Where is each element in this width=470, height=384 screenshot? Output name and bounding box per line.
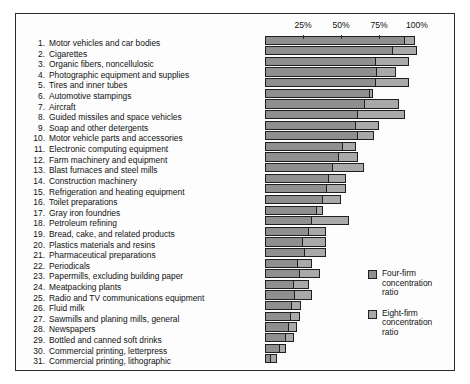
- category-number: 26.: [26, 303, 49, 314]
- bar-four-firm: [265, 121, 356, 130]
- category-label-row: 18.Petroleum refining: [26, 218, 256, 229]
- bar-four-firm: [265, 333, 286, 342]
- category-label-row: 11.Electronic computing equipment: [26, 144, 256, 155]
- category-label-list: 1.Motor vehicles and car bodies2.Cigaret…: [26, 38, 256, 367]
- category-name: Soap and other detergents: [49, 123, 256, 134]
- category-number: 16.: [26, 197, 49, 208]
- category-label-row: 21.Pharmaceutical preparations: [26, 250, 256, 261]
- bar-four-firm: [265, 174, 329, 183]
- category-name: Photographic equipment and supplies: [49, 70, 256, 81]
- category-name: Papermills, excluding building paper: [49, 271, 256, 282]
- category-name: Commercial printing, letterpress: [49, 346, 256, 357]
- category-number: 8.: [26, 112, 49, 123]
- category-number: 15.: [26, 187, 49, 198]
- bar-four-firm: [265, 67, 377, 76]
- bar-four-firm: [265, 248, 305, 257]
- bar-four-firm: [265, 46, 393, 55]
- category-name: Fluid milk: [49, 303, 256, 314]
- bar-row: [265, 88, 417, 99]
- category-number: 10.: [26, 133, 49, 144]
- category-name: Bread, cake, and related products: [49, 229, 256, 240]
- category-label-row: 20.Plastics materials and resins: [26, 240, 256, 251]
- category-number: 21.: [26, 250, 49, 261]
- category-number: 13.: [26, 165, 49, 176]
- category-name: Tires and inner tubes: [49, 80, 256, 91]
- category-name: Sawmills and planing mills, general: [49, 314, 256, 325]
- bar-four-firm: [265, 280, 294, 289]
- bar-four-firm: [265, 99, 365, 108]
- category-number: 27.: [26, 314, 49, 325]
- category-name: Motor vehicle parts and accessories: [49, 133, 256, 144]
- category-label-row: 19.Bread, cake, and related products: [26, 229, 256, 240]
- category-label-row: 8.Guided missiles and space vehicles: [26, 112, 256, 123]
- x-axis-tick-labels: 25%50%75%100%: [265, 20, 440, 34]
- bar-row: [265, 120, 417, 131]
- bar-four-firm: [265, 290, 295, 299]
- category-name: Radio and TV communications equipment: [49, 293, 256, 304]
- x-axis-tick-label: 75%: [370, 20, 387, 30]
- category-label-row: 14.Construction machinery: [26, 176, 256, 187]
- x-axis-tick-label: 50%: [332, 20, 349, 30]
- category-label-row: 27.Sawmills and planing mills, general: [26, 314, 256, 325]
- category-label-row: 24.Meatpacking plants: [26, 282, 256, 293]
- bar-four-firm: [265, 57, 376, 66]
- category-number: 28.: [26, 324, 49, 335]
- bar-row: [265, 237, 417, 248]
- bar-row: [265, 141, 417, 152]
- x-axis-tick-label: 25%: [294, 20, 311, 30]
- category-label-row: 26.Fluid milk: [26, 303, 256, 314]
- category-name: Bottled and canned soft drinks: [49, 335, 256, 346]
- category-label-row: 12.Farm machinery and equipment: [26, 155, 256, 166]
- x-axis-tick-mark: [379, 35, 380, 39]
- category-number: 17.: [26, 208, 49, 219]
- category-name: Gray iron foundries: [49, 208, 256, 219]
- x-axis-tick-label: 100%: [406, 20, 428, 30]
- bar-row: [265, 173, 417, 184]
- bar-four-firm: [265, 312, 291, 321]
- category-number: 1.: [26, 38, 49, 49]
- bar-row: [265, 226, 417, 237]
- bar-row: [265, 46, 417, 57]
- category-name: Cigarettes: [49, 49, 256, 60]
- category-name: Aircraft: [49, 102, 256, 113]
- category-label-row: 3.Organic fibers, noncellulosic: [26, 59, 256, 70]
- category-number: 4.: [26, 70, 49, 81]
- bar-four-firm: [265, 36, 405, 45]
- category-name: Electronic computing equipment: [49, 144, 256, 155]
- bar-four-firm: [265, 110, 358, 119]
- category-number: 11.: [26, 144, 49, 155]
- category-number: 5.: [26, 80, 49, 91]
- category-number: 3.: [26, 59, 49, 70]
- bar-four-firm: [265, 152, 339, 161]
- bar-row: [265, 35, 417, 46]
- legend-item: Eight-firmconcentrationratio: [368, 309, 452, 338]
- category-label-row: 31.Commercial printing, lithographic: [26, 356, 256, 367]
- category-name: Toilet preparations: [49, 197, 256, 208]
- category-label-row: 22.Periodicals: [26, 261, 256, 272]
- bar-row: [265, 152, 417, 163]
- bar-four-firm: [265, 269, 300, 278]
- category-number: 7.: [26, 102, 49, 113]
- bar-four-firm: [265, 216, 312, 225]
- legend-item: Four-firmconcentrationratio: [368, 269, 452, 298]
- category-number: 12.: [26, 155, 49, 166]
- bar-row: [265, 77, 417, 88]
- category-name: Plastics materials and resins: [49, 240, 256, 251]
- category-name: Organic fibers, noncellulosic: [49, 59, 256, 70]
- category-label-row: 15.Refrigeration and heating equipment: [26, 187, 256, 198]
- category-label-row: 9.Soap and other detergents: [26, 123, 256, 134]
- category-name: Motor vehicles and car bodies: [49, 38, 256, 49]
- bar-row: [265, 99, 417, 110]
- bar-row: [265, 162, 417, 173]
- category-label-row: 10.Motor vehicle parts and accessories: [26, 133, 256, 144]
- bar-row: [265, 184, 417, 195]
- category-name: Pharmaceutical preparations: [49, 250, 256, 261]
- category-number: 23.: [26, 271, 49, 282]
- category-number: 9.: [26, 123, 49, 134]
- category-label-row: 30.Commercial printing, letterpress: [26, 346, 256, 357]
- category-number: 19.: [26, 229, 49, 240]
- category-name: Blast furnaces and steel mills: [49, 165, 256, 176]
- bar-four-firm: [265, 89, 370, 98]
- bar-four-firm: [265, 131, 358, 140]
- chart-legend: Four-firmconcentrationratioEight-firmcon…: [368, 269, 452, 349]
